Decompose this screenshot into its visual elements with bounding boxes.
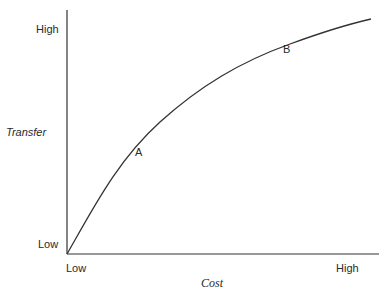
- y-tick-low: Low: [38, 238, 58, 250]
- x-tick-low: Low: [66, 262, 86, 274]
- transfer-curve: [67, 19, 371, 254]
- point-b-label: B: [283, 43, 290, 55]
- y-axis-title: Transfer: [6, 126, 46, 138]
- transfer-cost-chart: High Transfer Low Low High Cost A B: [0, 0, 389, 307]
- y-tick-high: High: [36, 23, 59, 35]
- x-tick-high: High: [336, 262, 359, 274]
- point-a-label: A: [135, 146, 142, 158]
- chart-canvas: [0, 0, 389, 307]
- x-axis-title: Cost: [201, 276, 223, 291]
